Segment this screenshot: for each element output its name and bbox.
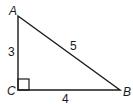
vertex-label-b: B	[123, 85, 131, 99]
vertex-label-c: C	[7, 84, 16, 98]
triangle-abc	[18, 16, 120, 90]
side-length-ac: 3	[8, 45, 15, 59]
vertex-label-a: A	[8, 4, 17, 18]
side-length-cb: 4	[62, 92, 69, 104]
triangle-diagram: A C B 3 5 4	[0, 0, 133, 104]
right-angle-marker	[18, 79, 29, 90]
side-length-ab: 5	[70, 39, 77, 53]
